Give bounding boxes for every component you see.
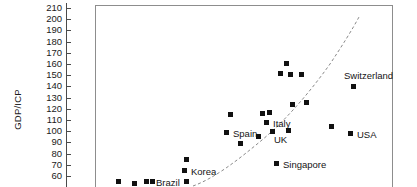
data-point-marker	[116, 179, 121, 184]
data-point-marker	[150, 179, 155, 184]
data-point-label: Spain	[233, 129, 257, 139]
data-point-marker	[278, 71, 283, 76]
chart-figure: GDP/ICP 60708090100110120130140150160170…	[0, 0, 417, 187]
data-point-marker	[304, 100, 309, 105]
data-point-marker	[182, 168, 187, 173]
data-point-marker	[290, 102, 295, 107]
data-point-marker	[132, 181, 137, 186]
data-point-marker	[238, 141, 243, 146]
data-point-marker	[351, 84, 356, 89]
data-point-label: Switzerland	[344, 71, 393, 81]
data-point-marker	[284, 61, 289, 66]
data-point-marker	[260, 111, 265, 116]
data-point-marker	[228, 112, 233, 117]
data-point-marker	[329, 124, 334, 129]
data-point-marker	[184, 157, 189, 162]
data-point-label: Brazil	[156, 178, 180, 187]
data-point-marker	[256, 134, 261, 139]
data-point-marker	[299, 72, 304, 77]
data-point-marker	[224, 130, 229, 135]
data-point-marker	[288, 72, 293, 77]
data-point-marker	[264, 120, 269, 125]
scatter-data-layer: BrazilKoreaSpainItalyUKSingaporeSwitzerl…	[0, 0, 417, 187]
data-point-marker	[274, 161, 279, 166]
data-point-marker	[286, 128, 291, 133]
data-point-label: Singapore	[283, 160, 326, 170]
data-point-marker	[267, 110, 272, 115]
data-point-marker	[348, 131, 353, 136]
data-point-label: USA	[357, 130, 377, 140]
data-point-label: Korea	[191, 167, 216, 177]
data-point-label: UK	[274, 135, 287, 145]
data-point-marker	[184, 179, 189, 184]
data-point-marker	[144, 179, 149, 184]
